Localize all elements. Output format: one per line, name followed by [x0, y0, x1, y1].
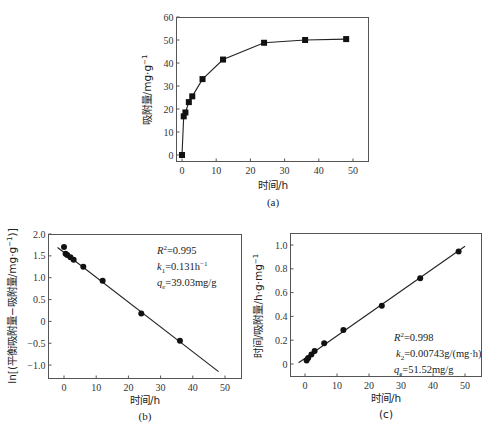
- x-tick-label: 10: [211, 165, 221, 176]
- chart-c-pseudo-second-order: 0102030405000.20.40.60.81.0 R2=0.998 k2=…: [252, 234, 482, 421]
- y-tick-label: 0: [41, 316, 46, 327]
- y-tick-label: 0.2: [275, 335, 288, 346]
- x-tick-label: 0: [62, 382, 67, 393]
- data-point: [71, 257, 77, 263]
- data-point: [340, 327, 346, 333]
- data-point: [80, 264, 86, 270]
- data-point: [100, 278, 106, 284]
- x-tick-label: 0: [303, 380, 308, 391]
- x-axis-label: 时间/h: [371, 392, 401, 404]
- data-point: [417, 275, 423, 281]
- data-point: [261, 40, 267, 46]
- data-point: [220, 57, 226, 63]
- data-series: [299, 246, 465, 363]
- svg-text:R2=0.995: R2=0.995: [156, 244, 196, 256]
- y-tick-label: 0.4: [275, 311, 288, 322]
- data-point: [138, 311, 144, 317]
- x-tick-label: 40: [188, 382, 198, 393]
- fit-annotations: R2=0.998 k2=0.00743g/(mg·h) qe=51.52mg/g: [393, 331, 482, 378]
- chart-a-adsorption-vs-time: 010203040500102030405060 时间/h (a) 吸附量/mg…: [141, 12, 369, 210]
- y-tick-label: 0: [169, 150, 174, 161]
- y-tick-label: 2.0: [33, 229, 46, 240]
- data-point: [177, 338, 183, 344]
- y-tick-label: 0: [283, 359, 288, 370]
- plot-frame: [49, 235, 242, 379]
- data-point: [343, 36, 349, 42]
- data-point: [61, 244, 67, 250]
- figure: 010203040500102030405060 时间/h (a) 吸附量/mg…: [0, 0, 491, 435]
- x-tick-label: 0: [180, 165, 185, 176]
- x-tick-label: 40: [314, 165, 324, 176]
- x-tick-label: 20: [364, 380, 374, 391]
- y-tick-label: −0.5: [27, 338, 45, 349]
- y-tick-label: 1.0: [275, 240, 288, 251]
- svg-text:qe=39.03mg/g: qe=39.03mg/g: [157, 277, 217, 291]
- y-tick-label: 10: [164, 127, 174, 138]
- fit-annotations: R2=0.995 k1=0.131h−1 qe=39.03mg/g: [156, 244, 217, 291]
- y-tick-label: 60: [164, 12, 174, 23]
- svg-text:k2=0.00743g/(mg·h): k2=0.00743g/(mg·h): [396, 348, 482, 362]
- x-tick-label: 40: [428, 380, 438, 391]
- x-tick-label: 50: [348, 165, 358, 176]
- y-tick-label: 0.6: [275, 287, 288, 298]
- x-tick-label: 10: [332, 380, 342, 391]
- y-tick-label: 0.5: [33, 294, 46, 305]
- x-tick-label: 30: [280, 165, 290, 176]
- y-tick-label: 30: [164, 81, 174, 92]
- x-tick-label: 20: [123, 382, 133, 393]
- chart-caption: (a): [267, 196, 280, 209]
- x-axis-label: 时间/h: [130, 394, 160, 406]
- x-tick-label: 50: [220, 382, 230, 393]
- series-line: [182, 39, 346, 155]
- x-axis-label: 时间/h: [258, 179, 288, 191]
- data-point: [456, 249, 462, 255]
- data-point: [186, 99, 192, 105]
- x-tick-label: 20: [245, 165, 255, 176]
- data-point: [179, 152, 185, 158]
- data-series: [179, 36, 349, 158]
- data-point: [321, 340, 327, 346]
- x-tick-label: 30: [396, 380, 406, 391]
- data-point: [200, 76, 206, 82]
- data-point: [379, 303, 385, 309]
- y-tick-label: 1.5: [33, 250, 46, 261]
- chart-caption: (c): [379, 408, 393, 420]
- x-tick-label: 30: [156, 382, 166, 393]
- y-axis-label: 吸附量/mg·g−1: [141, 55, 153, 126]
- y-axis-label: ln[(平衡吸附量−吸附量/mg·g−1)]: [6, 228, 18, 384]
- chart-caption: (b): [139, 410, 152, 423]
- data-point: [182, 109, 188, 115]
- svg-text:k1=0.131h−1: k1=0.131h−1: [157, 260, 208, 275]
- svg-text:qe=51.52mg/g: qe=51.52mg/g: [394, 364, 454, 378]
- y-axis-label: 时间/吸附量/h·g·mg−1: [252, 254, 264, 358]
- x-tick-label: 10: [91, 382, 101, 393]
- y-tick-label: 50: [164, 35, 174, 46]
- y-tick-label: 0.8: [275, 263, 288, 274]
- y-tick-label: 20: [164, 104, 174, 115]
- data-point: [189, 93, 195, 99]
- y-tick-label: −1.0: [27, 360, 45, 371]
- svg-text:R2=0.998: R2=0.998: [393, 331, 433, 343]
- chart-b-pseudo-first-order: 01020304050−1.0−0.500.51.01.52.0 R2=0.99…: [6, 228, 242, 423]
- data-point: [312, 348, 318, 354]
- axis-ticks: 01020304050−1.0−0.500.51.01.52.0: [27, 229, 230, 393]
- data-point: [302, 37, 308, 43]
- x-tick-label: 50: [460, 380, 470, 391]
- y-tick-label: 1.0: [33, 272, 46, 283]
- y-tick-label: 40: [164, 58, 174, 69]
